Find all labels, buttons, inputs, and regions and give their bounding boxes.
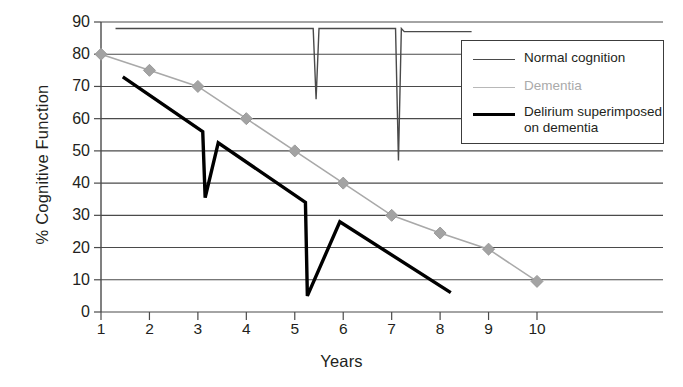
series-marker-dementia-year-3: [192, 80, 204, 92]
series-marker-dementia-year-8: [434, 227, 446, 239]
legend-swatch-normal-cognition: [473, 59, 515, 60]
series-line-delirium-superimposed: [123, 77, 451, 296]
legend-item-normal-cognition: Normal cognition: [473, 50, 625, 66]
legend-label-delirium-superimposed: Delirium superimposed on dementia: [524, 104, 662, 136]
series-line-normal-cognition: [116, 28, 472, 160]
legend-label-normal-cognition: Normal cognition: [524, 50, 625, 66]
legend-item-dementia: Dementia: [473, 78, 582, 94]
series-marker-dementia-year-9: [483, 243, 495, 255]
series-marker-dementia-year-2: [143, 64, 155, 76]
legend-swatch-delirium-superimposed: [473, 113, 515, 116]
series-marker-dementia-year-4: [240, 113, 252, 125]
legend-swatch-dementia: [473, 87, 515, 88]
legend-item-delirium-superimposed: Delirium superimposed on dementia: [473, 104, 662, 136]
legend-label-dementia: Dementia: [524, 78, 582, 94]
series-marker-dementia-year-5: [289, 145, 301, 157]
chart-legend: Normal cognition Dementia Delirium super…: [461, 40, 664, 144]
series-marker-dementia-year-1: [95, 48, 107, 60]
series-marker-dementia-year-6: [337, 177, 349, 189]
series-marker-dementia-year-10: [531, 275, 543, 287]
chart-container: % Cognitive Function Years 0102030405060…: [0, 0, 683, 387]
series-marker-dementia-year-7: [386, 209, 398, 221]
